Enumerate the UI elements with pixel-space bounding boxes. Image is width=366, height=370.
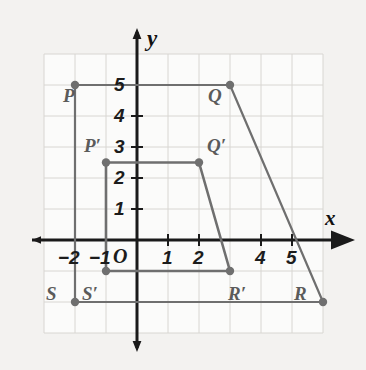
vertex-dot [71,298,79,306]
y-axis-up-arrow-icon [133,28,142,39]
point-label-Pp: P′ [84,136,101,155]
point-label-Q: Q [208,86,222,105]
point-label-Qp: Q′ [207,136,226,155]
vertex-dot [102,158,110,166]
y-axis-down-arrow-icon [133,341,142,352]
vertex-dot [102,267,110,275]
x-tick-label-4: 4 [255,248,266,267]
point-label-Rp: R′ [228,284,246,303]
y-tick-label-2: 2 [114,168,125,187]
x-axis-left-arrow-icon [32,236,41,244]
x-tick-label--2: −2 [58,248,80,267]
y-tick-label-3: 3 [114,137,125,156]
y-axis-label: y [147,27,157,50]
x-axis-label: x [325,208,336,229]
point-label-Sp: S′ [82,284,98,303]
point-label-S: S [46,284,57,303]
x-tick-label--1: −1 [89,248,111,267]
y-tick-label-4: 4 [114,106,125,125]
point-label-R: R [294,284,307,303]
x-tick-label-5: 5 [286,248,297,267]
graph-canvas: y x O −2−1124512345 PQP′Q′SS′R′R [0,0,366,370]
vertex-dot [226,267,234,275]
y-tick-label-1: 1 [114,199,125,218]
vertex-dot [195,158,203,166]
coordinate-plane-svg [0,0,366,370]
origin-label: O [113,246,127,266]
y-tick-label-5: 5 [114,75,125,94]
point-label-P: P [63,86,75,105]
x-tick-label-1: 1 [162,248,173,267]
x-tick-label-2: 2 [193,248,204,267]
vertex-dot [226,81,234,89]
vertex-dot [319,298,327,306]
